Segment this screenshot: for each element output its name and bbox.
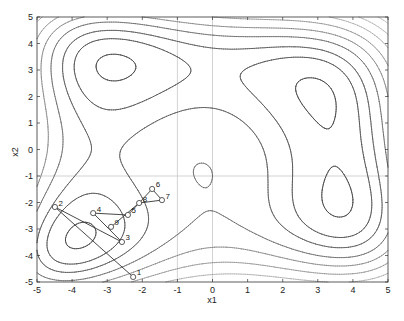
y-tick-label: 1 [28,118,33,128]
y-tick-label: 2 [28,92,33,102]
x-tick-label: -5 [33,285,41,295]
x-tick-label: -4 [68,285,76,295]
y-tick-label: 5 [28,12,33,22]
path-point-label: 1 [137,268,142,277]
x-tick-label: -3 [103,285,111,295]
path-point-marker [150,186,155,191]
x-tick-label: 1 [245,285,250,295]
path-point-marker [131,274,136,279]
path-point-marker [125,212,130,217]
y-tick-label: -3 [25,224,33,234]
y-tick-label: 4 [28,39,33,49]
path-point-marker [91,211,96,216]
x-tick-label: 5 [385,285,390,295]
path-point-marker [108,224,113,229]
y-tick-label: -1 [25,171,33,181]
path-point-label: 8 [143,195,148,204]
y-tick-label: -4 [25,251,33,261]
contour-chart: 123456789 -5-4-3-2-1012345 -5-4-3-2-1012… [0,0,404,321]
path-point-label: 6 [156,180,161,189]
path-point-label: 7 [165,192,170,201]
x-tick-label: 2 [280,285,285,295]
path-point-marker [137,200,142,205]
path-point-marker [159,198,164,203]
path-point-marker [52,204,57,209]
y-tick-label: -2 [25,198,33,208]
x-tick-label: 4 [350,285,355,295]
x-tick-label: 3 [315,285,320,295]
x-tick-label: -1 [173,285,181,295]
path-point-marker [119,239,124,244]
path-point-label: 2 [58,199,63,208]
x-tick-label: 0 [210,285,215,295]
x-tick-label: -2 [138,285,146,295]
y-tick-label: 0 [28,145,33,155]
y-tick-label: 3 [28,65,33,75]
x-axis-label: x1 [207,295,217,305]
path-point-label: 4 [97,205,102,214]
y-tick-label: -5 [25,277,33,287]
path-point-label: 9 [115,218,120,227]
path-point-label: 5 [131,206,136,215]
path-point-label: 3 [125,233,130,242]
y-axis-label: x2 [10,147,20,157]
